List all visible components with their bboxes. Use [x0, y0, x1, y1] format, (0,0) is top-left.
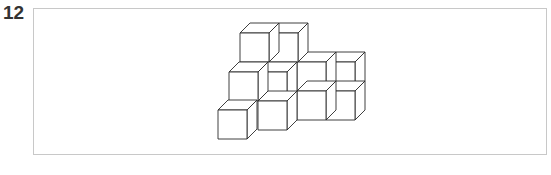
cube-front-face — [229, 72, 258, 101]
cube-front-face — [297, 91, 326, 120]
cube — [297, 81, 336, 120]
cube-front-face — [240, 33, 269, 62]
cube — [218, 100, 257, 139]
cube — [229, 62, 268, 101]
cube — [258, 91, 297, 130]
cube-front-face — [218, 110, 247, 139]
cube-figure — [0, 0, 551, 175]
cube-front-face — [258, 101, 287, 130]
cube — [240, 23, 279, 62]
